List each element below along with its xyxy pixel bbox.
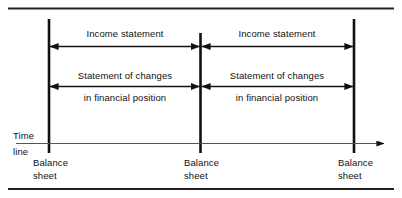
balance-sheet-label-3-line2: sheet (338, 170, 362, 181)
balance-sheet-label-3-line1: Balance (338, 157, 373, 168)
diagram-canvas (0, 0, 402, 198)
income-statement-label-2: Income statement (238, 28, 315, 39)
time-line-label-line2: line (13, 146, 28, 157)
balance-sheet-label-1-line1: Balance (33, 157, 68, 168)
time-line-label-line1: Time (13, 130, 34, 141)
balance-sheet-label-2-line1: Balance (184, 157, 219, 168)
diagram-figure: Income statement Statement of changes in… (0, 0, 402, 198)
balance-sheet-label-1-line2: sheet (33, 170, 57, 181)
changes-label-2-line2: in financial position (236, 92, 318, 103)
income-statement-label-1: Income statement (86, 28, 163, 39)
changes-label-2-line1: Statement of changes (230, 70, 324, 81)
changes-label-1-line1: Statement of changes (78, 70, 172, 81)
balance-sheet-label-2-line2: sheet (184, 170, 208, 181)
changes-label-1-line2: in financial position (84, 92, 166, 103)
